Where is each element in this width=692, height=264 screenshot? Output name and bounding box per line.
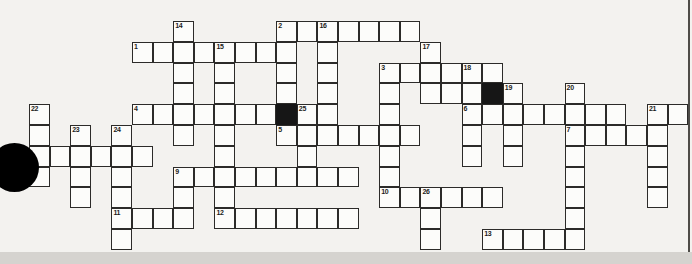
grid-cell[interactable] — [482, 187, 503, 208]
grid-cell[interactable] — [153, 104, 174, 125]
grid-cell[interactable] — [194, 42, 215, 63]
grid-cell[interactable] — [256, 104, 277, 125]
grid-cell[interactable]: 24 — [111, 125, 132, 146]
grid-cell[interactable] — [523, 229, 544, 250]
grid-cell[interactable] — [338, 21, 359, 42]
grid-cell[interactable] — [317, 83, 338, 104]
grid-cell[interactable] — [297, 167, 318, 188]
grid-cell[interactable] — [400, 187, 421, 208]
grid-cell[interactable] — [235, 104, 256, 125]
grid-cell[interactable] — [379, 21, 400, 42]
grid-cell[interactable]: 20 — [565, 83, 586, 104]
grid-cell[interactable] — [194, 167, 215, 188]
grid-cell[interactable]: 4 — [132, 104, 153, 125]
grid-cell[interactable] — [606, 125, 627, 146]
grid-cell[interactable]: 22 — [29, 104, 50, 125]
grid-cell[interactable]: 25 — [297, 104, 318, 125]
grid-cell[interactable] — [173, 187, 194, 208]
grid-cell[interactable]: 12 — [214, 208, 235, 229]
grid-cell[interactable]: 11 — [111, 208, 132, 229]
grid-cell[interactable] — [585, 125, 606, 146]
grid-cell[interactable] — [565, 187, 586, 208]
grid-cell[interactable] — [379, 83, 400, 104]
grid-cell[interactable] — [317, 42, 338, 63]
grid-cell[interactable] — [153, 208, 174, 229]
grid-cell[interactable]: 26 — [420, 187, 441, 208]
grid-cell[interactable] — [400, 63, 421, 84]
grid-cell[interactable] — [297, 146, 318, 167]
grid-cell[interactable] — [214, 83, 235, 104]
grid-cell[interactable] — [194, 104, 215, 125]
grid-cell[interactable]: 7 — [565, 125, 586, 146]
grid-cell[interactable]: 21 — [647, 104, 668, 125]
grid-cell[interactable] — [400, 21, 421, 42]
grid-cell[interactable]: 1 — [132, 42, 153, 63]
grid-cell[interactable]: 17 — [420, 42, 441, 63]
grid-cell[interactable] — [441, 63, 462, 84]
grid-cell[interactable] — [70, 187, 91, 208]
grid-cell[interactable] — [256, 208, 277, 229]
grid-cell[interactable] — [647, 146, 668, 167]
grid-cell[interactable]: 2 — [276, 21, 297, 42]
grid-cell[interactable] — [276, 208, 297, 229]
grid-cell[interactable] — [379, 167, 400, 188]
grid-cell[interactable] — [503, 125, 524, 146]
grid-cell[interactable] — [235, 167, 256, 188]
grid-cell[interactable] — [317, 167, 338, 188]
grid-cell[interactable] — [565, 208, 586, 229]
grid-cell[interactable] — [173, 125, 194, 146]
grid-cell[interactable] — [111, 229, 132, 250]
grid-cell[interactable] — [441, 83, 462, 104]
grid-cell[interactable] — [173, 208, 194, 229]
grid-cell[interactable] — [317, 125, 338, 146]
grid-cell[interactable] — [338, 208, 359, 229]
grid-cell[interactable]: 19 — [503, 83, 524, 104]
grid-cell[interactable] — [29, 125, 50, 146]
grid-cell[interactable] — [544, 104, 565, 125]
grid-cell[interactable] — [420, 83, 441, 104]
grid-cell[interactable] — [173, 83, 194, 104]
grid-cell[interactable] — [297, 208, 318, 229]
grid-cell[interactable] — [359, 21, 380, 42]
grid-cell[interactable] — [214, 104, 235, 125]
grid-cell[interactable] — [523, 104, 544, 125]
grid-cell[interactable] — [50, 146, 71, 167]
grid-cell[interactable] — [214, 125, 235, 146]
grid-cell[interactable] — [359, 125, 380, 146]
grid-cell[interactable] — [544, 229, 565, 250]
grid-cell[interactable] — [317, 208, 338, 229]
grid-cell[interactable] — [111, 187, 132, 208]
grid-cell[interactable] — [111, 146, 132, 167]
grid-cell[interactable]: 13 — [482, 229, 503, 250]
grid-cell[interactable] — [235, 208, 256, 229]
grid-cell[interactable] — [503, 146, 524, 167]
grid-cell[interactable] — [111, 167, 132, 188]
grid-cell[interactable]: 15 — [214, 42, 235, 63]
grid-cell[interactable] — [647, 167, 668, 188]
grid-cell[interactable] — [462, 125, 483, 146]
grid-cell[interactable]: 16 — [317, 21, 338, 42]
grid-cell[interactable] — [420, 229, 441, 250]
grid-cell[interactable] — [317, 63, 338, 84]
grid-cell[interactable] — [462, 83, 483, 104]
grid-cell[interactable] — [565, 146, 586, 167]
grid-cell[interactable]: 9 — [173, 167, 194, 188]
grid-cell[interactable]: 18 — [462, 63, 483, 84]
grid-cell[interactable] — [441, 187, 462, 208]
grid-cell[interactable] — [482, 63, 503, 84]
grid-cell[interactable] — [565, 229, 586, 250]
grid-cell[interactable]: 5 — [276, 125, 297, 146]
grid-cell[interactable] — [585, 104, 606, 125]
grid-cell[interactable] — [297, 21, 318, 42]
grid-cell[interactable]: 10 — [379, 187, 400, 208]
grid-cell[interactable] — [462, 187, 483, 208]
grid-cell[interactable] — [173, 104, 194, 125]
grid-cell[interactable] — [420, 208, 441, 229]
grid-cell[interactable] — [379, 104, 400, 125]
grid-cell[interactable] — [70, 167, 91, 188]
grid-cell[interactable] — [276, 167, 297, 188]
grid-cell[interactable] — [235, 42, 256, 63]
grid-cell[interactable] — [214, 167, 235, 188]
grid-cell[interactable] — [297, 125, 318, 146]
grid-cell[interactable] — [462, 146, 483, 167]
